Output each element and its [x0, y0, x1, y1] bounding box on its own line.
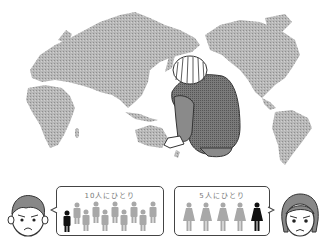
woman-worried-face [276, 190, 324, 242]
africa [26, 85, 75, 148]
man-worried-face [4, 190, 52, 240]
left-speech-bubble: 10人にひとり [56, 186, 164, 236]
ratio-label: 5人にひとり [175, 190, 269, 200]
female-figure-highlighted [251, 203, 263, 232]
right-bubble-tail [267, 206, 275, 214]
crouching-person [160, 52, 250, 162]
right-speech-bubble: 5人にひとり [174, 186, 270, 236]
female-figures [181, 201, 267, 233]
south-america [272, 110, 312, 165]
male-figure-highlighted [64, 211, 71, 233]
male-figures [61, 199, 161, 233]
left-bubble-tail [50, 206, 58, 214]
